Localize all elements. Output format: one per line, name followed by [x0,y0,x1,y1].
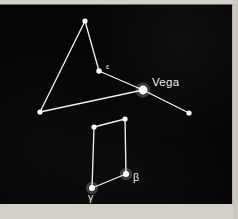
star-epsilon[interactable] [96,68,101,73]
star-beta[interactable] [123,171,129,177]
constellation-lines [40,21,189,188]
star-east[interactable] [186,110,191,115]
star-west[interactable] [37,109,42,114]
plate-mount-right [233,0,238,219]
constellation-line-west-vega [40,90,143,112]
constellation-line-apex-west [40,21,85,112]
star-label-vega: Vega [152,76,180,88]
star-label-gamma: γ [88,191,94,203]
star-markers [37,18,191,194]
star-vega[interactable] [139,86,148,95]
constellation-line-vega-east [143,90,189,113]
constellation-diagram: εVegaβγ [0,5,233,204]
sky-panel: εVegaβγ [0,4,233,204]
star-zeta[interactable] [91,124,96,129]
constellation-line-gamma-zeta [92,127,94,188]
star-label-epsilon: ε [106,62,110,71]
constellation-line-apex-epsilon [85,21,99,71]
star-labels: εVegaβγ [88,62,180,203]
star-delta[interactable] [122,116,127,121]
constellation-line-delta-beta [125,119,126,174]
star-apex[interactable] [82,18,87,23]
star-chart-plate: εVegaβγ [0,0,238,219]
plate-mount-bottom [0,204,238,219]
constellation-line-zeta-delta [94,119,125,127]
star-label-beta: β [133,171,139,183]
